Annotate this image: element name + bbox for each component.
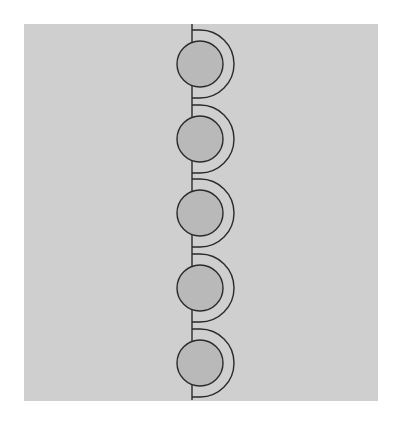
bead-chain-diagram	[0, 0, 396, 427]
bead-5	[177, 340, 223, 386]
bead-4	[177, 265, 223, 311]
bead-1	[177, 41, 223, 87]
bead-2	[177, 116, 223, 162]
bead-3	[177, 190, 223, 236]
